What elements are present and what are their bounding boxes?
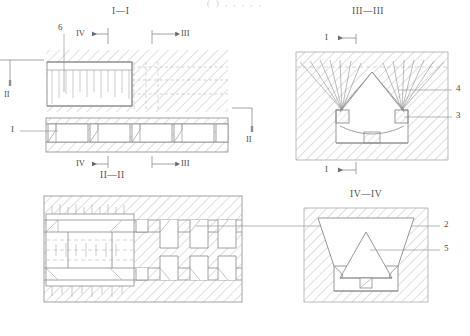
figure-linework [0, 0, 470, 336]
section-title-II-II: II—II [100, 171, 125, 181]
section-title-I-I: I—I [112, 7, 129, 17]
section-marker-I-bottom: I [325, 165, 328, 174]
section-marker-III-top: III [181, 29, 190, 38]
section-title-III-III: III—III [352, 7, 384, 17]
section-marker-III-bottom: III [181, 159, 190, 168]
section-marker-I-top: I [325, 33, 328, 42]
callout-2: 2 [444, 220, 449, 229]
view-I-I [0, 28, 252, 168]
cropped-caption-text: ( ) , , , , , [0, 0, 470, 8]
callout-5: 5 [444, 244, 449, 253]
callout-4: 4 [456, 84, 461, 93]
section-marker-IV-bottom: IV [76, 159, 85, 168]
callout-6: 6 [58, 23, 63, 32]
section-title-IV-IV: IV—IV [350, 190, 382, 200]
section-marker-II-right: II [246, 135, 252, 144]
drawing-sheet: ( ) , , , , , [0, 0, 470, 336]
callout-3: 3 [456, 111, 461, 120]
view-IV-IV [304, 208, 440, 302]
section-marker-IV-top: IV [76, 29, 85, 38]
view-III-III [296, 34, 452, 174]
section-marker-II-left: II [4, 90, 10, 99]
callout-1: I [11, 125, 14, 134]
